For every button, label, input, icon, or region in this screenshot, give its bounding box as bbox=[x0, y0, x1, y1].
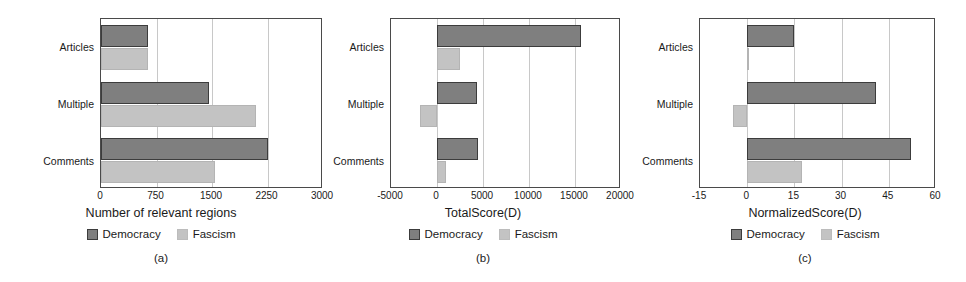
x-axis-title: Number of relevant regions bbox=[0, 206, 322, 220]
plot-wrapper: ArticlesMultipleComments-15015304560 bbox=[644, 18, 966, 188]
bar-democracy-comments bbox=[101, 138, 268, 160]
legend-swatch-democracy-icon bbox=[409, 229, 420, 240]
x-tick-label: 30 bbox=[835, 190, 846, 201]
y-category-label: Comments bbox=[642, 155, 700, 167]
chart-legend: DemocracyFascism bbox=[644, 228, 966, 240]
chart-legend: DemocracyFascism bbox=[0, 228, 322, 240]
bar-democracy-multiple bbox=[101, 82, 209, 104]
plot-wrapper: ArticlesMultipleComments0750150022503000 bbox=[0, 18, 322, 188]
bar-fascism-multiple bbox=[733, 105, 747, 127]
bar-democracy-multiple bbox=[437, 82, 477, 104]
x-tick-label: 0 bbox=[97, 190, 103, 201]
legend-label: Fascism bbox=[515, 228, 558, 240]
x-tick-label: 2250 bbox=[255, 190, 277, 201]
chart-panel-b: ArticlesMultipleComments-500005000100001… bbox=[322, 0, 644, 282]
x-tick-label: 20000 bbox=[606, 190, 634, 201]
x-tick-label: -5000 bbox=[377, 190, 403, 201]
plot-area: ArticlesMultipleComments bbox=[390, 18, 620, 188]
legend-label: Fascism bbox=[193, 228, 236, 240]
x-tick-label: 5000 bbox=[471, 190, 493, 201]
y-category-label: Articles bbox=[659, 41, 700, 53]
bar-fascism-comments bbox=[437, 161, 446, 183]
legend-item-democracy[interactable]: Democracy bbox=[731, 228, 805, 240]
legend-swatch-fascism-icon bbox=[821, 229, 832, 240]
x-tick-label: 15000 bbox=[560, 190, 588, 201]
x-axis-ticks: 0750150022503000 bbox=[100, 188, 322, 204]
x-tick-label: 45 bbox=[882, 190, 893, 201]
legend-swatch-democracy-icon bbox=[87, 229, 98, 240]
x-axis-ticks: -15015304560 bbox=[699, 188, 935, 204]
figure-panel-row: ArticlesMultipleComments0750150022503000… bbox=[0, 0, 966, 282]
bar-fascism-multiple bbox=[101, 105, 256, 127]
bar-democracy-comments bbox=[437, 138, 478, 160]
x-tick-label: 1500 bbox=[200, 190, 222, 201]
bar-democracy-comments bbox=[747, 138, 911, 160]
bar-democracy-articles bbox=[437, 25, 581, 47]
panel-caption: (a) bbox=[0, 252, 322, 264]
gridline bbox=[889, 19, 890, 187]
bar-fascism-articles bbox=[437, 48, 460, 70]
legend-item-fascism[interactable]: Fascism bbox=[177, 228, 236, 240]
chart-panel-c: ArticlesMultipleComments-15015304560Norm… bbox=[644, 0, 966, 282]
x-tick-label: 750 bbox=[147, 190, 164, 201]
bar-democracy-multiple bbox=[747, 82, 876, 104]
bar-fascism-articles bbox=[101, 48, 148, 70]
panel-caption: (c) bbox=[644, 252, 966, 264]
legend-swatch-democracy-icon bbox=[731, 229, 742, 240]
bar-fascism-articles bbox=[747, 48, 749, 70]
legend-swatch-fascism-icon bbox=[177, 229, 188, 240]
plot-wrapper: ArticlesMultipleComments-500005000100001… bbox=[322, 18, 644, 188]
chart-legend: DemocracyFascism bbox=[322, 228, 644, 240]
legend-label: Democracy bbox=[425, 228, 483, 240]
y-category-label: Comments bbox=[333, 155, 391, 167]
gridline bbox=[268, 19, 269, 187]
bar-fascism-comments bbox=[101, 161, 215, 183]
x-tick-label: 10000 bbox=[514, 190, 542, 201]
bar-democracy-articles bbox=[101, 25, 148, 47]
legend-label: Democracy bbox=[747, 228, 805, 240]
x-tick-label: 15 bbox=[788, 190, 799, 201]
x-axis-title: NormalizedScore(D) bbox=[644, 206, 966, 220]
x-axis-title: TotalScore(D) bbox=[322, 206, 644, 220]
y-category-label: Multiple bbox=[58, 98, 101, 110]
legend-item-democracy[interactable]: Democracy bbox=[409, 228, 483, 240]
plot-area: ArticlesMultipleComments bbox=[699, 18, 935, 188]
x-axis-ticks: -500005000100001500020000 bbox=[390, 188, 620, 204]
bar-fascism-comments bbox=[747, 161, 802, 183]
legend-swatch-fascism-icon bbox=[499, 229, 510, 240]
plot-area: ArticlesMultipleComments bbox=[100, 18, 322, 188]
panel-caption: (b) bbox=[322, 252, 644, 264]
y-category-label: Articles bbox=[60, 41, 101, 53]
bar-democracy-articles bbox=[747, 25, 794, 47]
x-tick-label: 0 bbox=[433, 190, 439, 201]
x-tick-label: 0 bbox=[743, 190, 749, 201]
legend-label: Democracy bbox=[103, 228, 161, 240]
legend-item-fascism[interactable]: Fascism bbox=[821, 228, 880, 240]
x-tick-label: -15 bbox=[692, 190, 706, 201]
legend-item-democracy[interactable]: Democracy bbox=[87, 228, 161, 240]
legend-label: Fascism bbox=[837, 228, 880, 240]
bar-fascism-multiple bbox=[420, 105, 437, 127]
y-category-label: Comments bbox=[43, 155, 101, 167]
x-tick-label: 60 bbox=[929, 190, 940, 201]
y-category-label: Articles bbox=[350, 41, 391, 53]
chart-panel-a: ArticlesMultipleComments0750150022503000… bbox=[0, 0, 322, 282]
y-category-label: Multiple bbox=[657, 98, 700, 110]
y-category-label: Multiple bbox=[348, 98, 391, 110]
legend-item-fascism[interactable]: Fascism bbox=[499, 228, 558, 240]
